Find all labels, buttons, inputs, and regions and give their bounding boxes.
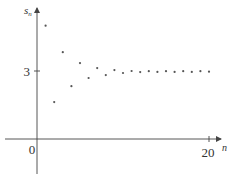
y-tick-label-3: 3 <box>24 64 31 79</box>
y-axis-label-sub: n <box>28 10 32 18</box>
data-point <box>53 101 55 103</box>
data-point <box>199 70 201 72</box>
data-point <box>113 69 115 71</box>
data-point <box>182 70 184 72</box>
data-point <box>105 74 107 76</box>
data-point <box>148 70 150 72</box>
y-axis-label: sn <box>24 4 32 18</box>
data-point <box>88 77 90 79</box>
data-point <box>174 71 176 73</box>
data-point <box>156 71 158 73</box>
data-point <box>96 67 98 69</box>
data-point <box>70 85 72 87</box>
data-point <box>139 71 141 73</box>
x-axis-label: n <box>222 142 227 153</box>
data-point <box>208 71 210 73</box>
data-point <box>79 62 81 64</box>
data-points <box>45 25 211 104</box>
data-point <box>131 70 133 72</box>
x-tick-label-0: 0 <box>29 142 36 157</box>
chart: 3 0 20 n sn <box>0 0 231 185</box>
data-point <box>62 51 64 53</box>
x-tick-label-20: 20 <box>202 145 215 160</box>
data-point <box>191 71 193 73</box>
data-point <box>165 70 167 72</box>
data-point <box>122 72 124 74</box>
data-point <box>45 25 47 27</box>
